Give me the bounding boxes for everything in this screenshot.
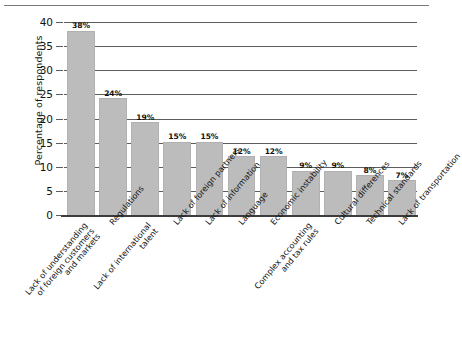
top-divider-rule <box>4 5 429 6</box>
y-axis-tick-mark <box>56 94 63 95</box>
y-axis-tick-mark <box>56 70 63 71</box>
bar-value-label: 38% <box>72 21 90 30</box>
bar[interactable]: 38% <box>67 31 95 215</box>
bar-value-label: 15% <box>168 132 186 141</box>
y-axis-tick-label: 5 <box>46 185 53 197</box>
bar-value-label: 12% <box>265 147 283 156</box>
x-axis-category-label-line: Lack of international <box>91 220 153 291</box>
y-axis-tick-mark <box>56 167 63 168</box>
y-axis-tick-mark <box>56 22 63 23</box>
bar[interactable]: 24% <box>99 98 127 215</box>
x-axis-category-label[interactable]: Lack of internationaltalent <box>92 221 159 296</box>
x-axis-category-label-line: and tax rules <box>259 227 319 297</box>
x-axis-category-label[interactable]: Complex accountingand tax rules <box>253 221 320 296</box>
gridline <box>64 70 417 71</box>
y-axis-tick-label: 30 <box>40 64 53 76</box>
y-axis-tick-label: 0 <box>46 209 53 221</box>
x-axis-category-label-line: talent <box>99 227 160 297</box>
y-axis-tick-label: 35 <box>40 40 53 52</box>
y-axis-tick-label: 20 <box>40 113 53 125</box>
gridline <box>64 22 417 23</box>
y-axis-tick-label: 40 <box>40 16 53 28</box>
y-axis-tick-label: 25 <box>40 88 53 100</box>
bar-value-label: 24% <box>104 89 122 98</box>
bar-value-label: 19% <box>136 113 154 122</box>
y-axis-tick-label: 10 <box>40 161 53 173</box>
y-axis-tick-mark <box>56 119 63 120</box>
bar-value-label: 9% <box>331 161 344 170</box>
bar-value-label: 15% <box>200 132 218 141</box>
x-axis-category-label[interactable]: Lack of understandingof foreign customer… <box>23 221 102 308</box>
y-axis-tick-mark <box>56 191 63 192</box>
y-axis-tick-label: 15 <box>40 137 53 149</box>
x-axis-category-label-line: of foreign customers <box>30 227 95 303</box>
x-axis-category-label-line: Complex accounting <box>252 220 314 291</box>
y-axis-tick-mark <box>56 143 63 144</box>
gridline <box>64 46 417 47</box>
y-axis-tick-mark <box>56 46 63 47</box>
